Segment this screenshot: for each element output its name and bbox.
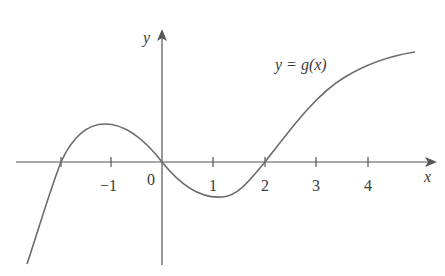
tick-label-2: 2 xyxy=(261,177,269,194)
tick-label-1: 1 xyxy=(209,177,217,194)
curve-label: y = g(x) xyxy=(273,56,327,74)
x-axis-label: x xyxy=(423,168,431,185)
curve-g xyxy=(27,52,415,264)
tick-label-neg1: −1 xyxy=(100,177,117,194)
y-axis-label: y xyxy=(141,29,151,47)
tick-label-4: 4 xyxy=(364,177,372,194)
graph-figure: −1 0 1 2 3 4 x y y = g(x) xyxy=(0,0,445,276)
tick-label-3: 3 xyxy=(312,177,320,194)
origin-label: 0 xyxy=(147,171,155,188)
